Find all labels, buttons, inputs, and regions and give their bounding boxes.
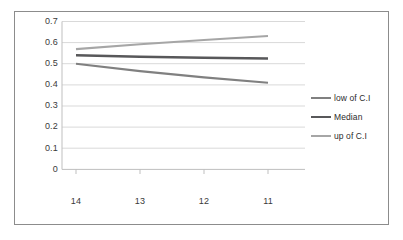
x-tick-label-1: 13 [125,196,155,206]
x-tick-label-2: 12 [189,196,219,206]
y-tick-label-0: 0.7 [28,16,58,26]
legend-swatch-median [311,116,331,118]
legend-label-low-of-ci: low of C.I [334,93,370,103]
chart-legend: low of C.I Median up of C.I [311,90,383,147]
legend-item-median[interactable]: Median [311,109,383,125]
y-tick-label-1: 0.6 [28,37,58,47]
legend-item-low-of-ci[interactable]: low of C.I [311,90,383,106]
legend-label-median: Median [334,112,362,122]
series-line-median [76,55,268,58]
x-tick-label-0: 14 [61,196,91,206]
legend-swatch-up-of-ci [311,135,331,137]
legend-item-up-of-ci[interactable]: up of C.I [311,128,383,144]
legend-label-up-of-ci: up of C.I [334,131,367,141]
y-tick-label-4: 0.3 [28,100,58,110]
x-tick-label-3: 11 [253,196,283,206]
y-tick-label-2: 0.5 [28,58,58,68]
y-tick-label-6: 0.1 [28,143,58,153]
y-tick-label-5: 0.2 [28,121,58,131]
chart-screenshot: 0.7 0.6 0.5 0.4 0.3 0.2 0.1 0 14 13 12 1… [0,0,403,240]
y-tick-label-7: 0 [28,164,58,174]
legend-swatch-low-of-ci [311,97,331,99]
y-tick-label-3: 0.4 [28,79,58,89]
x-tick-marks [76,169,268,174]
series-line-low-of-ci [76,64,268,83]
